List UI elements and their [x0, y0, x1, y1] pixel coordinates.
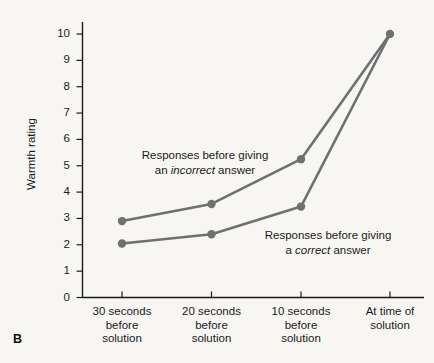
- x-tick-label-2-line-1: before: [251, 319, 351, 333]
- x-tick-label-0: 30 secondsbeforesolution: [72, 305, 172, 346]
- y-tick-label-9: 9: [48, 54, 70, 66]
- series-line-0: [122, 34, 390, 221]
- x-tick-label-2-line-2: solution: [251, 332, 351, 346]
- x-tick-label-3: At time ofsolution: [340, 305, 434, 332]
- data-point-s1-x2: [297, 202, 305, 210]
- annotation-correct-emphasis: correct: [295, 244, 330, 256]
- x-tick-label-1-line-2: solution: [162, 332, 262, 346]
- y-tick-label-3: 3: [48, 212, 70, 224]
- panel-label-b: B: [13, 332, 22, 346]
- data-point-s0-x0: [118, 217, 126, 225]
- x-tick-label-0-line-2: solution: [72, 332, 172, 346]
- annotation-correct-series: Responses before giving a correct answer: [238, 228, 418, 257]
- y-tick-label-7: 7: [48, 107, 70, 119]
- y-tick-label-6: 6: [48, 133, 70, 145]
- annotation-correct-line1: Responses before giving: [265, 229, 392, 241]
- x-tick-label-2: 10 secondsbeforesolution: [251, 305, 351, 346]
- x-tick-label-1-line-1: before: [162, 319, 262, 333]
- x-tick-label-3-line-1: solution: [340, 319, 434, 333]
- y-axis-ticks: [77, 34, 83, 298]
- y-tick-label-1: 1: [48, 265, 70, 277]
- annotation-correct-line2-suffix: answer: [330, 244, 370, 256]
- annotation-incorrect-emphasis: incorrect: [171, 164, 215, 176]
- data-point-s0-x3: [386, 30, 394, 38]
- y-axis-title: Warmth rating: [25, 94, 37, 214]
- data-point-s1-x0: [118, 239, 126, 247]
- x-tick-label-1-line-0: 20 seconds: [162, 305, 262, 319]
- data-point-s0-x1: [207, 200, 215, 208]
- data-series-group: [118, 30, 394, 248]
- x-tick-label-2-line-0: 10 seconds: [251, 305, 351, 319]
- y-tick-label-10: 10: [48, 28, 70, 40]
- data-point-s1-x1: [207, 230, 215, 238]
- x-axis-ticks: [122, 292, 390, 298]
- y-tick-label-5: 5: [48, 160, 70, 172]
- x-tick-label-1: 20 secondsbeforesolution: [162, 305, 262, 346]
- annotation-incorrect-line1: Responses before giving: [142, 149, 269, 161]
- y-tick-label-8: 8: [48, 81, 70, 93]
- x-tick-label-3-line-0: At time of: [340, 305, 434, 319]
- annotation-incorrect-series: Responses before giving an incorrect ans…: [115, 148, 295, 177]
- data-point-s0-x2: [297, 155, 305, 163]
- series-line-1: [122, 34, 390, 243]
- annotation-correct-line2-prefix: a: [285, 244, 295, 256]
- x-tick-label-0-line-1: before: [72, 319, 172, 333]
- figure-panel-b: Warmth rating 012345678910 30 secondsbef…: [0, 0, 434, 363]
- y-tick-label-0: 0: [48, 292, 70, 304]
- x-tick-label-0-line-0: 30 seconds: [72, 305, 172, 319]
- y-tick-label-4: 4: [48, 186, 70, 198]
- y-tick-label-2: 2: [48, 239, 70, 251]
- annotation-incorrect-line2-prefix: an: [155, 164, 171, 176]
- annotation-incorrect-line2-suffix: answer: [215, 164, 255, 176]
